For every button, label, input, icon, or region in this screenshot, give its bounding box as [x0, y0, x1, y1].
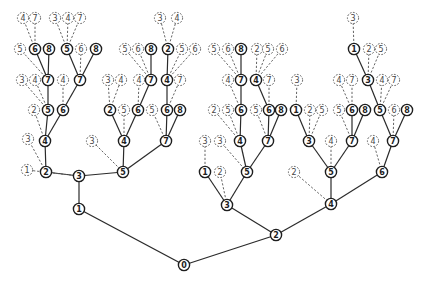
pruned-node: 5	[333, 104, 344, 115]
node-label: 6	[164, 106, 170, 115]
node-label: 4	[121, 137, 127, 146]
tree-node: 4	[234, 135, 245, 146]
node-label: 5	[377, 106, 383, 115]
tree-node: 5	[42, 104, 53, 115]
node-label: 4	[136, 76, 141, 85]
node-label: 5	[121, 106, 126, 115]
node-label: 3	[52, 14, 57, 23]
tree-node: 5	[325, 166, 336, 177]
node-label: 7	[391, 76, 396, 85]
node-label: 4	[328, 200, 334, 209]
node-label: 6	[135, 106, 141, 115]
tree-node: 8	[401, 104, 412, 115]
tree-node: 8	[235, 43, 246, 54]
node-label: 5	[244, 168, 250, 177]
tree-node: 6	[57, 104, 68, 115]
pruned-node: 2	[251, 43, 262, 54]
pruned-node: 3	[22, 133, 33, 144]
node-label: 6	[279, 45, 284, 54]
node-label: 8	[177, 106, 183, 115]
tree-node: 5	[61, 43, 72, 54]
tree-node: 8	[90, 43, 101, 54]
tree-node: 7	[145, 74, 156, 85]
pruned-node: 4	[333, 74, 344, 85]
pruned-node: 5	[208, 43, 219, 54]
pruned-node: 5	[222, 104, 233, 115]
node-label: 4	[60, 76, 65, 85]
node-label: 2	[43, 168, 49, 177]
node-label: 6	[78, 45, 83, 54]
node-label: 3	[294, 76, 299, 85]
tree-node: 6	[376, 166, 387, 177]
pruned-node: 3	[347, 12, 358, 23]
node-label: 6	[135, 45, 140, 54]
tree-node: 7	[42, 74, 53, 85]
node-label: 1	[76, 205, 82, 214]
node-label: 0	[181, 261, 187, 270]
node-label: 3	[365, 76, 371, 85]
node-label: 4	[328, 137, 333, 146]
node-label: 6	[266, 106, 272, 115]
pruned-node: 5	[14, 43, 25, 54]
tree-edge	[184, 235, 276, 265]
node-label: 3	[25, 135, 30, 144]
node-label: 2	[211, 106, 216, 115]
pruned-node: 6	[222, 43, 233, 54]
node-label: 7	[32, 14, 37, 23]
node-label: 8	[362, 106, 368, 115]
node-label: 2	[273, 231, 279, 240]
tree-node: 5	[374, 104, 385, 115]
node-label: 8	[404, 106, 410, 115]
pruned-node: 6	[189, 43, 200, 54]
pruned-node: 5	[316, 104, 327, 115]
node-label: 5	[17, 45, 22, 54]
node-label: 4	[253, 76, 259, 85]
tree-node: 4	[161, 74, 172, 85]
node-label: 1	[351, 45, 357, 54]
tree-node: 3	[362, 74, 373, 85]
tree-node: 3	[221, 199, 232, 210]
node-label: 5	[336, 106, 341, 115]
node-label: 1	[293, 106, 299, 115]
tree-node: 1	[348, 43, 359, 54]
tree-node: 7	[74, 74, 85, 85]
node-label: 5	[265, 45, 270, 54]
tree-node: 8	[43, 43, 54, 54]
tree-edge	[276, 204, 331, 235]
pruned-node: 3	[86, 135, 97, 146]
pruned-node: 6	[276, 43, 287, 54]
pruned-node: 7	[388, 74, 399, 85]
tree-node: 7	[262, 135, 273, 146]
pruned-node: 3	[291, 74, 302, 85]
node-label: 2	[107, 106, 113, 115]
pruned-node: 4	[115, 74, 126, 85]
pruned-node: 5	[119, 43, 130, 54]
node-label: 5	[328, 168, 334, 177]
tree-edge	[227, 205, 276, 235]
pruned-node: 5	[250, 104, 261, 115]
pruned-node: 7	[346, 74, 357, 85]
node-label: 5	[253, 106, 258, 115]
tree-node: 4	[250, 74, 261, 85]
tree-edge	[79, 209, 184, 265]
pruned-node: 2	[28, 104, 39, 115]
pruned-node: 3	[154, 12, 165, 23]
tree-node: 5	[241, 166, 252, 177]
node-label: 4	[32, 76, 37, 85]
pruned-node: 2	[208, 104, 219, 115]
tree-node: 1	[199, 166, 210, 177]
node-label: 3	[224, 201, 230, 210]
node-label: 7	[238, 76, 244, 85]
node-label: 5	[64, 45, 70, 54]
node-label: 7	[77, 14, 82, 23]
tree-node: 1	[73, 203, 84, 214]
nodes-layer: 0123215435627347468556847347437256568344…	[14, 12, 412, 270]
node-label: 6	[60, 106, 66, 115]
pruned-node: 5	[118, 104, 129, 115]
node-label: 7	[148, 76, 154, 85]
node-label: 3	[19, 76, 24, 85]
tree-node: 4	[39, 135, 50, 146]
tree-node: 6	[235, 104, 246, 115]
pruned-node: 3	[214, 135, 225, 146]
pruned-node: 2	[214, 166, 225, 177]
